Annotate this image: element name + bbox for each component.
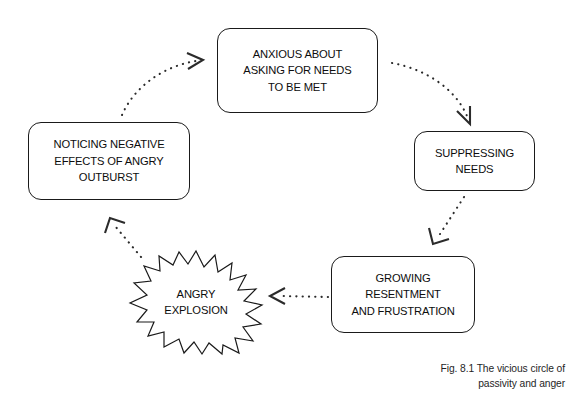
arrow-growing-to-explosion (270, 288, 328, 304)
node-suppressing-needs[interactable]: SUPPRESSING NEEDS (414, 131, 535, 191)
node-label: ANXIOUS ABOUT ASKING FOR NEEDS TO BE MET (243, 46, 351, 96)
node-label: GROWING RESENTMENT AND FRUSTRATION (351, 270, 454, 320)
node-angry-explosion[interactable]: ANGRY EXPLOSION (118, 250, 274, 354)
node-label: SUPPRESSING NEEDS (435, 145, 514, 178)
node-label: ANGRY EXPLOSION (118, 250, 274, 354)
node-anxious-about-asking-for-needs[interactable]: ANXIOUS ABOUT ASKING FOR NEEDS TO BE MET (217, 28, 378, 113)
node-label: NOTICING NEGATIVE EFFECTS OF ANGRY OUTBU… (54, 136, 165, 186)
arrow-noticing-to-anxious (122, 53, 203, 115)
figure-caption: Fig. 8.1 The vicious circle of passivity… (305, 362, 565, 391)
node-growing-resentment-and-frustration[interactable]: GROWING RESENTMENT AND FRUSTRATION (331, 256, 475, 333)
figure-canvas: ANXIOUS ABOUT ASKING FOR NEEDS TO BE MET… (0, 0, 577, 409)
arrow-anxious-to-suppressing (392, 63, 470, 124)
arrow-suppressing-to-growing (429, 197, 464, 244)
node-noticing-negative-effects-of-angry-outburst[interactable]: NOTICING NEGATIVE EFFECTS OF ANGRY OUTBU… (28, 122, 190, 200)
